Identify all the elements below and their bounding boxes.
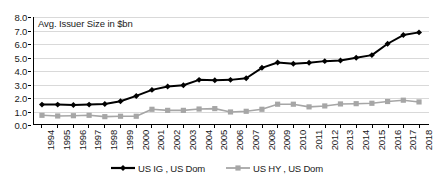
data-point <box>165 108 170 113</box>
data-point <box>259 107 264 112</box>
x-tick-mark <box>356 125 357 128</box>
x-tick-mark <box>167 125 168 128</box>
data-point <box>118 98 124 104</box>
chart-container: 0.01.02.03.04.05.06.07.08.0 Avg. Issuer … <box>0 0 433 182</box>
data-point <box>181 108 186 113</box>
data-point <box>87 113 92 118</box>
series-us-hy <box>39 98 421 120</box>
x-tick-mark <box>214 125 215 128</box>
legend-label: US HY , US Dom <box>253 163 323 174</box>
x-tick-mark <box>419 125 420 128</box>
data-point <box>228 109 233 114</box>
data-point <box>133 93 139 99</box>
data-point <box>244 109 249 114</box>
data-point <box>306 60 312 66</box>
data-point <box>275 60 281 66</box>
y-tick-mark <box>28 85 31 86</box>
data-point <box>149 87 155 93</box>
x-tick-label: 2010 <box>297 130 308 150</box>
x-tick-label: 1998 <box>108 130 119 150</box>
data-point <box>212 77 218 83</box>
data-point <box>401 98 406 103</box>
y-tick-label: 7.0 <box>14 25 27 36</box>
data-point <box>102 114 107 119</box>
y-tick-label: 4.0 <box>14 66 27 77</box>
data-point <box>322 103 327 108</box>
x-tick-label: 2018 <box>423 130 433 150</box>
data-point <box>212 106 217 111</box>
x-tick-label: 2001 <box>155 130 166 150</box>
y-tick-mark <box>28 17 31 18</box>
y-tick-label: 5.0 <box>14 52 27 63</box>
x-tick-label: 2009 <box>281 130 292 150</box>
x-tick-label: 1997 <box>92 130 103 150</box>
x-axis: 1994199519961997199819992000200120022003… <box>33 125 429 161</box>
y-tick-mark <box>28 112 31 113</box>
x-tick-mark <box>104 125 105 128</box>
data-point <box>196 77 202 83</box>
data-point <box>385 99 390 104</box>
x-tick-mark <box>73 125 74 128</box>
x-tick-mark <box>309 125 310 128</box>
x-tick-mark <box>230 125 231 128</box>
data-point <box>337 57 343 63</box>
x-tick-mark <box>57 125 58 128</box>
x-tick-label: 2000 <box>140 130 151 150</box>
x-tick-label: 2012 <box>329 130 340 150</box>
legend-swatch-square <box>225 162 251 174</box>
x-tick-mark <box>183 125 184 128</box>
series-line <box>42 32 419 105</box>
x-tick-mark <box>199 125 200 128</box>
x-tick-mark <box>388 125 389 128</box>
data-point <box>290 61 296 67</box>
x-tick-label: 2002 <box>171 130 182 150</box>
y-tick-mark <box>28 125 31 126</box>
x-tick-mark <box>293 125 294 128</box>
legend-item-us-ig[interactable]: US IG , US Dom <box>110 162 205 174</box>
data-point <box>39 102 45 108</box>
data-point <box>354 101 359 106</box>
data-point <box>369 101 374 106</box>
legend-item-us-hy[interactable]: US HY , US Dom <box>225 162 323 174</box>
data-point <box>102 101 108 107</box>
x-tick-label: 1994 <box>45 130 56 150</box>
data-point <box>196 106 201 111</box>
x-tick-mark <box>262 125 263 128</box>
x-tick-mark <box>372 125 373 128</box>
data-point <box>70 102 76 108</box>
x-tick-mark <box>340 125 341 128</box>
data-point <box>71 113 76 118</box>
y-axis: 0.01.02.03.04.05.06.07.08.0 <box>0 17 31 125</box>
y-tick-label: 8.0 <box>14 12 27 23</box>
data-point <box>228 77 234 83</box>
y-tick-label: 1.0 <box>14 106 27 117</box>
chart-legend: US IG , US DomUS HY , US Dom <box>0 162 433 174</box>
data-point <box>275 102 280 107</box>
x-tick-mark <box>277 125 278 128</box>
x-tick-label: 1999 <box>124 130 135 150</box>
x-tick-mark <box>88 125 89 128</box>
x-tick-mark <box>151 125 152 128</box>
x-tick-label: 2007 <box>250 130 261 150</box>
data-point <box>306 104 311 109</box>
x-tick-label: 2003 <box>187 130 198 150</box>
x-tick-label: 2016 <box>392 130 403 150</box>
x-tick-mark <box>41 125 42 128</box>
data-point <box>180 82 186 88</box>
data-point <box>149 107 154 112</box>
x-tick-mark <box>136 125 137 128</box>
y-tick-mark <box>28 71 31 72</box>
x-tick-label: 2006 <box>234 130 245 150</box>
y-tick-label: 0.0 <box>14 120 27 131</box>
data-point <box>338 101 343 106</box>
x-tick-mark <box>120 125 121 128</box>
y-tick-mark <box>28 44 31 45</box>
y-tick-label: 2.0 <box>14 93 27 104</box>
data-point <box>39 113 44 118</box>
data-point <box>134 114 139 119</box>
data-point <box>416 99 421 104</box>
y-tick-mark <box>28 31 31 32</box>
y-tick-mark <box>28 98 31 99</box>
x-tick-label: 1995 <box>61 130 72 150</box>
data-point <box>322 58 328 64</box>
